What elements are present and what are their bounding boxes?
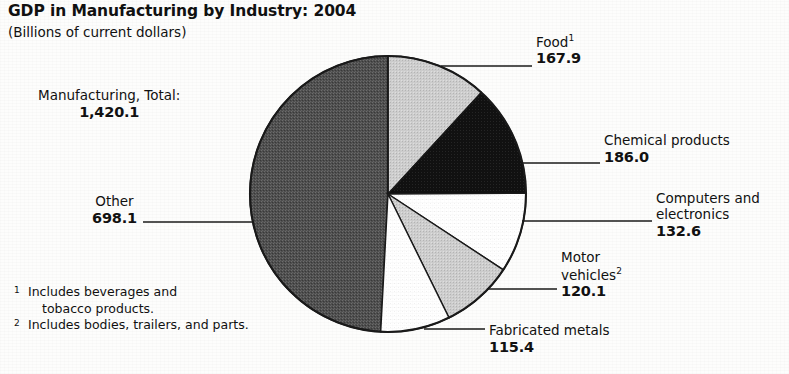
callout-chemical-products: Chemical products 186.0 [604,133,730,166]
callout-fabricated-metals: Fabricated metals 115.4 [489,323,610,356]
callout-motor-vehicles-label-line1: Motor [561,250,622,266]
callout-motor-vehicles-label-line2: vehicles2 [561,266,622,283]
callout-manufacturing-total-label: Manufacturing, Total: [38,88,180,104]
callout-computers-and-electronics-label-line2: electronics [656,207,760,223]
callout-computers-and-electronics-label-line1: Computers and [656,191,760,207]
footnote-ref-2: 2 [616,266,622,276]
callout-manufacturing-total-value: 1,420.1 [38,104,180,121]
callout-computers-and-electronics: Computers and electronics 132.6 [656,191,760,240]
footnote-1-mark: 1 [14,284,28,297]
callout-food: Food1 167.9 [536,33,581,67]
pie-slice-other[interactable] [250,56,388,332]
footnote-1-text-line2: tobacco products. [28,301,177,318]
footnote-2-text: Includes bodies, trailers, and parts. [28,317,249,334]
footnote-2-mark: 2 [14,317,28,330]
callout-food-value: 167.9 [536,50,581,67]
callout-motor-vehicles: Motor vehicles2 120.1 [561,250,622,300]
callout-computers-and-electronics-value: 132.6 [656,223,760,240]
callout-manufacturing-total: Manufacturing, Total: 1,420.1 [38,88,180,121]
callout-motor-vehicles-value: 120.1 [561,283,622,300]
footnote-ref-1: 1 [568,33,574,43]
callout-other: Other 698.1 [92,194,137,227]
footnote-2: 2 Includes bodies, trailers, and parts. [14,317,249,334]
callout-chemical-products-value: 186.0 [604,149,730,166]
pie-slices [250,56,526,332]
callout-chemical-products-label: Chemical products [604,133,730,149]
chart-page: GDP in Manufacturing by Industry: 2004 (… [0,0,789,374]
callout-fabricated-metals-label: Fabricated metals [489,323,610,339]
callout-fabricated-metals-value: 115.4 [489,339,610,356]
footnote-1: 1 Includes beverages and tobacco product… [14,284,249,317]
callout-other-label: Other [92,194,137,210]
callout-other-value: 698.1 [92,210,137,227]
footnotes: 1 Includes beverages and tobacco product… [14,284,249,334]
footnote-1-text: Includes beverages and [28,284,177,301]
callout-food-label: Food1 [536,33,581,50]
